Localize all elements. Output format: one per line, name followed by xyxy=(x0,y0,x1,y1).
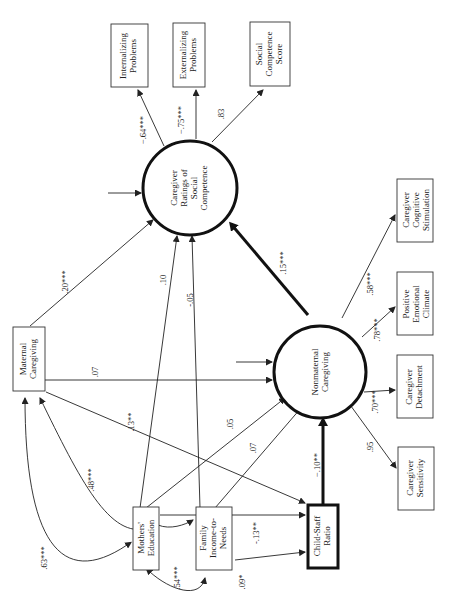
coef-corr-maternal-education-b: .48*** xyxy=(86,468,96,491)
node-mothers-education: Mothers'Education xyxy=(133,507,159,570)
svg-text:InternalizingProblems: InternalizingProblems xyxy=(118,33,138,79)
corr-maternal-education-a xyxy=(25,398,127,561)
node-child-staff-ratio: Child-StaffRatio xyxy=(308,505,338,568)
coef-education-ratings: .10 xyxy=(158,275,168,286)
edge-education-nonmaternal xyxy=(146,398,285,508)
svg-text:CaregiverSensitivity: CaregiverSensitivity xyxy=(405,458,425,497)
coef-ratio-nonmaternal: −.10** xyxy=(312,453,322,477)
coef-ratings-externalizing: −.75*** xyxy=(176,106,186,134)
node-caregiver-detachment: CaregiverDetachment xyxy=(397,355,433,418)
node-caregiver-ratings-social-competence: CaregiverRatings ofSocialCompetence xyxy=(143,141,237,235)
coef-ratings-score: .83 xyxy=(216,109,226,120)
edge-maternal-ratings xyxy=(30,220,153,326)
node-caregiver-cognitive-stimulation: CaregiverCognitiveStimulation xyxy=(397,179,433,242)
node-maternal-caregiving: MaternalCaregiving xyxy=(13,327,45,391)
edge-nonmaternal-ratings xyxy=(231,224,308,315)
coef-corr-education-income: .54*** xyxy=(172,566,182,589)
path-diagram: InternalizingProblems ExternalizingProbl… xyxy=(0,0,454,603)
coef-income-ratio: -.13** xyxy=(251,522,261,544)
edge-maternal-ratio xyxy=(46,392,305,503)
coef-nonmaternal-sensitivity: .95 xyxy=(365,442,375,453)
node-social-competence-score: SocialCompetenceScore xyxy=(250,22,290,86)
svg-text:NonmaternalCaregiving: NonmaternalCaregiving xyxy=(310,348,330,395)
coef-ratings-internalizing: −.64*** xyxy=(138,116,148,144)
coef-maternal-ratings: .20*** xyxy=(60,270,70,293)
edge-income-ratings xyxy=(192,236,200,508)
node-family-income-to-needs: FamilyIncome-to-Needs xyxy=(196,507,232,570)
edge-nonmaternal-stimulation xyxy=(342,215,395,318)
coef-nonmaternal-climate: .78*** xyxy=(372,318,382,341)
coef-nonmaternal-stimulation: .58*** xyxy=(365,272,375,295)
node-nonmaternal-caregiving: NonmaternalCaregiving xyxy=(274,326,366,418)
svg-text:MaternalCaregiving: MaternalCaregiving xyxy=(18,339,38,379)
edge-education-income-small xyxy=(158,520,193,527)
node-caregiver-sensitivity: CaregiverSensitivity xyxy=(398,447,434,510)
svg-text:CaregiverDetachment: CaregiverDetachment xyxy=(404,365,424,409)
svg-text:CaregiverCognitiveStimulation: CaregiverCognitiveStimulation xyxy=(401,189,431,232)
coef-income-nonmaternal: .07 xyxy=(248,443,258,454)
svg-text:PositiveEmotionalClimate: PositiveEmotionalClimate xyxy=(401,285,431,323)
coef-maternal-nonmaternal: .07 xyxy=(90,367,100,378)
node-externalizing-problems: ExternalizingProblems xyxy=(173,23,205,87)
coef-maternal-ratio: .13** xyxy=(126,412,136,431)
coef-nonmaternal-detachment: .70*** xyxy=(370,390,380,413)
node-positive-emotional-climate: PositiveEmotionalClimate xyxy=(397,272,433,335)
coef-ratio-error: .09* xyxy=(237,575,247,590)
coef-corr-maternal-education-a: .63*** xyxy=(39,546,49,569)
coef-income-ratings: -.05 xyxy=(185,293,195,306)
coef-education-nonmaternal: .05 xyxy=(225,419,235,430)
node-internalizing-problems: InternalizingProblems xyxy=(111,24,148,87)
edge-income-ratio xyxy=(235,552,305,560)
coef-nonmaternal-ratings: .15*** xyxy=(278,251,288,274)
svg-text:Mothers'Education: Mothers'Education xyxy=(136,519,156,556)
